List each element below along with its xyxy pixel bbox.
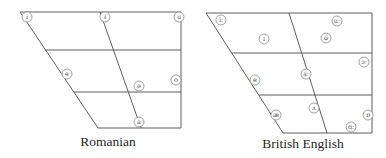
british-english-vowel-symbol-ɑː: ɑː <box>348 123 354 131</box>
british-english-vowel-symbol-iː: iː <box>219 16 223 24</box>
british-english-vowel-symbol-æ: æ <box>273 111 279 119</box>
british-english-vowel-symbol-ɜː: ɜː <box>303 70 308 78</box>
romanian-central-diagonal <box>100 12 141 128</box>
romanian-vowel-symbol-e: e <box>65 70 69 78</box>
british-english-vowel-symbol-uː: uː <box>334 17 340 25</box>
british-english-vowel-symbol-ɒ: ɒ <box>366 111 370 119</box>
romanian-vowel-symbol-ɨ: ɨ <box>104 13 106 21</box>
romanian-vowel-symbol-o: o <box>174 76 178 84</box>
british-english-vowel-symbol-ɔː: ɔː <box>361 58 367 66</box>
romanian-vowel-chart: iɨueəoa <box>20 12 184 128</box>
british-english-vowel-chart: iːɪuːʊɔːɜːeʌæɒɑː <box>206 13 373 133</box>
british-english-vowel-symbol-ɪ: ɪ <box>263 35 265 43</box>
british-english-vowel-symbol-e: e <box>253 76 257 84</box>
vowel-charts-figure: iɨueəoa iːɪuːʊɔːɜːeʌæɒɑː Romanian Britis… <box>0 0 386 158</box>
romanian-vowel-symbol-u: u <box>177 13 181 21</box>
romanian-vowel-symbol-i: i <box>26 13 28 21</box>
romanian-vowel-symbol-ə: ə <box>137 82 141 90</box>
romanian-outline-left-diagonal <box>20 12 98 128</box>
romanian-vowel-symbol-a: a <box>137 118 141 126</box>
british-english-vowel-symbol-ʊ: ʊ <box>324 34 328 42</box>
vowel-charts-canvas: iɨueəoa iːɪuːʊɔːɜːeʌæɒɑː Romanian Britis… <box>0 0 386 158</box>
romanian-caption: Romanian <box>80 134 136 149</box>
british-english-vowel-symbol-ʌ: ʌ <box>311 104 316 112</box>
british-english-caption: British English <box>262 136 344 151</box>
